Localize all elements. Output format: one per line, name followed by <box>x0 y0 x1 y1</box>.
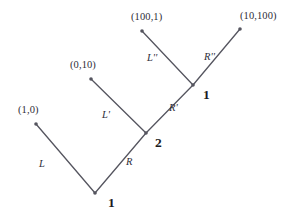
edge-L-label: L <box>39 159 45 170</box>
leaf-point-leaf-100-1 <box>140 29 144 33</box>
edge-R <box>95 133 146 193</box>
tree-edges-layer <box>0 0 303 217</box>
node-label-mid: 2 <box>155 136 162 150</box>
leaf-point-leaf-0-10 <box>89 77 93 81</box>
edge-Lpp-label: L'' <box>147 53 157 64</box>
node-point-root <box>93 191 97 195</box>
leaf-point-leaf-10-100 <box>238 27 242 31</box>
leaf-100-1-label: (100,1) <box>131 12 162 23</box>
edge-Lp <box>91 79 146 133</box>
edge-Rp-label: R' <box>169 103 178 114</box>
edge-Rpp <box>193 29 240 85</box>
node-label-upper: 1 <box>203 88 210 102</box>
node-point-mid <box>144 131 148 135</box>
leaf-1-0-label: (1,0) <box>18 105 39 116</box>
leaf-10-100-label: (10,100) <box>240 11 277 22</box>
edge-Lp-label: L' <box>102 110 110 121</box>
diagram-canvas: LRL'R'L''R''121(1,0)(0,10)(100,1)(10,100… <box>0 0 303 217</box>
node-point-upper <box>191 83 195 87</box>
leaf-0-10-label: (0,10) <box>70 60 96 71</box>
edge-Rpp-label: R'' <box>204 52 215 63</box>
edge-R-label: R <box>126 157 132 168</box>
leaf-point-leaf-1-0 <box>34 122 38 126</box>
node-label-root: 1 <box>108 196 115 210</box>
